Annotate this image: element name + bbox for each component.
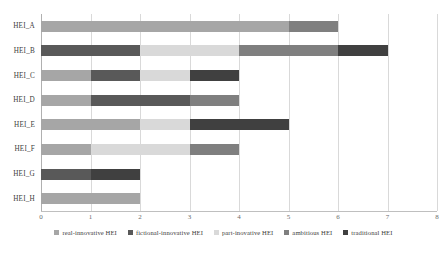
x-tick-7: 7 <box>386 213 390 221</box>
legend-item[interactable]: traditional HEI <box>343 229 392 236</box>
legend-label: ambitious HEI <box>292 229 332 236</box>
x-tick-2: 2 <box>138 213 142 221</box>
bar-segment <box>140 70 190 81</box>
legend-label: part-inovative HEI <box>222 229 273 236</box>
bar-track-hei_e <box>41 119 437 130</box>
bar-segment <box>41 21 289 32</box>
bar-segment <box>140 119 190 130</box>
legend-swatch-icon <box>214 230 219 235</box>
bar-track-hei_f <box>41 144 437 155</box>
y-axis-label-hei_f: HEI_F <box>0 145 35 153</box>
x-tick-4: 4 <box>237 213 241 221</box>
bar-segment <box>91 70 141 81</box>
x-axis-tick-labels: 012345678 <box>41 213 437 225</box>
bar-row <box>41 186 437 211</box>
x-axis-line <box>41 211 437 212</box>
legend-swatch-icon <box>128 230 133 235</box>
bar-segment <box>239 45 338 56</box>
x-tick-1: 1 <box>89 213 93 221</box>
bar-segment <box>91 169 141 180</box>
legend-item[interactable]: part-inovative HEI <box>214 229 273 236</box>
y-axis-label-hei_a: HEI_A <box>0 22 35 30</box>
bar-track-hei_c <box>41 70 437 81</box>
bar-row <box>41 63 437 88</box>
y-axis-label-hei_c: HEI_C <box>0 72 35 80</box>
bar-segment <box>41 45 140 56</box>
gridline-8 <box>437 14 438 211</box>
x-tick-3: 3 <box>188 213 192 221</box>
legend-swatch-icon <box>54 230 59 235</box>
bar-row <box>41 113 437 138</box>
bar-row <box>41 137 437 162</box>
y-axis-label-hei_b: HEI_B <box>0 47 35 55</box>
bar-track-hei_h <box>41 193 437 204</box>
bar-track-hei_a <box>41 21 437 32</box>
legend-swatch-icon <box>343 230 348 235</box>
bar-segment <box>41 70 91 81</box>
x-tick-6: 6 <box>336 213 340 221</box>
x-tick-8: 8 <box>435 213 439 221</box>
plot-area <box>41 14 437 211</box>
bar-segment <box>140 45 239 56</box>
y-axis-label-hei_e: HEI_E <box>0 121 35 129</box>
bar-segment <box>338 45 388 56</box>
chart-legend: real-innovative HEIfictional-innovative … <box>0 229 447 236</box>
bar-row <box>41 39 437 64</box>
bar-segment <box>41 119 140 130</box>
bar-row <box>41 88 437 113</box>
x-tick-5: 5 <box>287 213 291 221</box>
bar-row <box>41 162 437 187</box>
y-axis-label-hei_g: HEI_G <box>0 170 35 178</box>
legend-label: real-innovative HEI <box>62 229 116 236</box>
legend-label: traditional HEI <box>351 229 392 236</box>
y-axis-labels: HEI_AHEI_BHEI_CHEI_DHEI_EHEI_FHEI_GHEI_H <box>0 14 38 211</box>
bar-track-hei_b <box>41 45 437 56</box>
stacked-bar-chart: HEI_AHEI_BHEI_CHEI_DHEI_EHEI_FHEI_GHEI_H… <box>0 0 447 254</box>
legend-item[interactable]: ambitious HEI <box>284 229 332 236</box>
bar-segment <box>91 144 190 155</box>
bar-track-hei_g <box>41 169 437 180</box>
bar-segment <box>91 95 190 106</box>
bar-segment <box>41 95 91 106</box>
bar-segment <box>190 70 240 81</box>
x-tick-0: 0 <box>39 213 43 221</box>
bar-segment <box>41 169 91 180</box>
legend-label: fictional-innovative HEI <box>136 229 203 236</box>
y-axis-label-hei_d: HEI_D <box>0 96 35 104</box>
legend-swatch-icon <box>284 230 289 235</box>
bar-track-hei_d <box>41 95 437 106</box>
bar-segment <box>190 144 240 155</box>
bar-segment <box>190 119 289 130</box>
bar-segment <box>41 144 91 155</box>
bar-segment <box>190 95 240 106</box>
legend-item[interactable]: fictional-innovative HEI <box>128 229 203 236</box>
y-axis-label-hei_h: HEI_H <box>0 195 35 203</box>
legend-item[interactable]: real-innovative HEI <box>54 229 116 236</box>
bar-series-group <box>41 14 437 211</box>
bar-segment <box>41 193 140 204</box>
bar-row <box>41 14 437 39</box>
bar-segment <box>289 21 339 32</box>
